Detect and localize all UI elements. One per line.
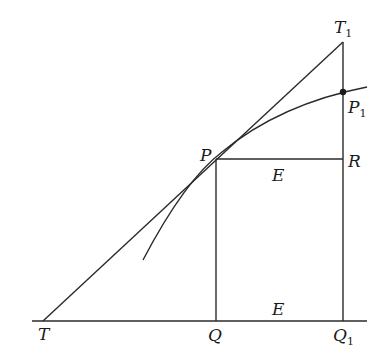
label-p: P [199, 145, 212, 165]
curve [143, 87, 367, 260]
p1-dot [340, 89, 346, 95]
label-r: R [347, 151, 361, 171]
tangent-diagram: T1 P1 P R E E T Q Q1 [0, 0, 385, 364]
label-p1: P1 [347, 97, 366, 120]
label-q1: Q1 [333, 325, 354, 348]
label-e-lower: E [271, 299, 285, 319]
label-q: Q [208, 325, 222, 345]
label-t1: T1 [334, 17, 352, 40]
label-e-upper: E [271, 165, 285, 185]
label-t: T [38, 324, 51, 344]
